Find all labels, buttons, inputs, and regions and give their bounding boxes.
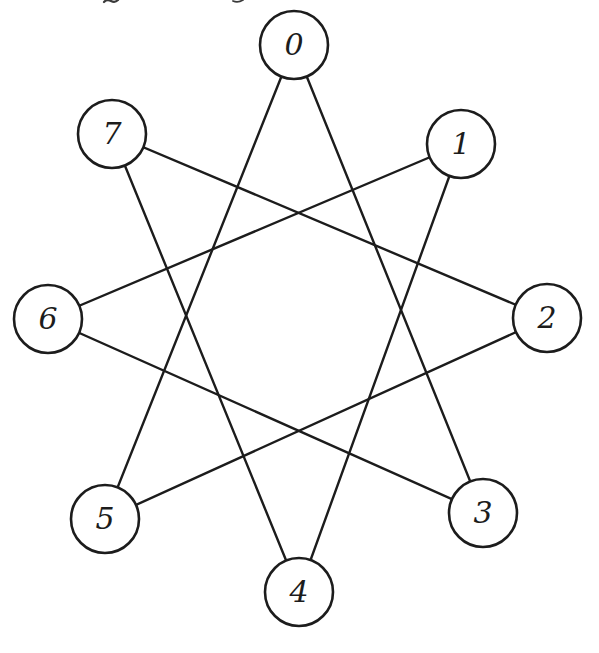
node-0: 0 xyxy=(260,11,328,79)
edge-1-6 xyxy=(48,144,461,319)
node-6: 6 xyxy=(14,285,82,353)
node-7: 7 xyxy=(78,100,146,168)
artifact-dot-1 xyxy=(204,1,207,4)
node-label-5: 5 xyxy=(95,501,114,536)
node-3: 3 xyxy=(449,479,517,547)
edge-4-7 xyxy=(112,134,299,592)
artifact-squiggle-0 xyxy=(104,0,118,2)
node-1: 1 xyxy=(427,110,495,178)
node-4: 4 xyxy=(265,558,333,626)
node-label-0: 0 xyxy=(284,27,303,62)
node-label-3: 3 xyxy=(473,495,492,530)
node-5: 5 xyxy=(71,485,139,553)
artifact-dot-3 xyxy=(310,170,312,172)
node-label-1: 1 xyxy=(451,126,470,161)
graph-figure: 01234567 xyxy=(0,0,599,653)
node-label-4: 4 xyxy=(288,574,308,609)
node-2: 2 xyxy=(513,284,581,352)
artifact-tick-2 xyxy=(233,0,243,2)
node-label-7: 7 xyxy=(102,116,122,151)
node-label-6: 6 xyxy=(38,301,57,336)
node-layer: 01234567 xyxy=(14,11,581,626)
octagram-graph-svg: 01234567 xyxy=(0,0,599,653)
node-label-2: 2 xyxy=(536,300,556,335)
edge-3-6 xyxy=(48,319,483,513)
